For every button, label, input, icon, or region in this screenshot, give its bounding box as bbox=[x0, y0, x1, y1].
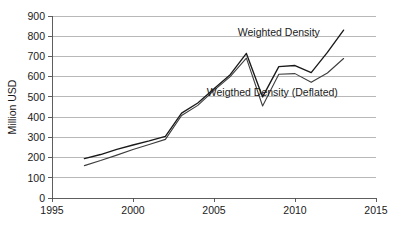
line-chart: 0100200300400500600700800900 19952000200… bbox=[0, 0, 396, 232]
axes bbox=[52, 16, 376, 198]
series-annotation-1: Weigthed Density (Deflated) bbox=[207, 86, 338, 98]
y-axis-tick-label: 900 bbox=[27, 10, 45, 22]
axis-tickmarks bbox=[48, 16, 376, 202]
data-series bbox=[84, 30, 343, 165]
series-annotations: Weighted DensityWeigthed Density (Deflat… bbox=[207, 26, 338, 98]
y-axis-tick-label: 700 bbox=[27, 50, 45, 62]
x-axis-tick-label: 2000 bbox=[121, 204, 145, 216]
y-axis-tick-labels: 0100200300400500600700800900 bbox=[27, 10, 45, 204]
series-annotation-0: Weighted Density bbox=[238, 26, 321, 38]
x-axis-tick-label: 1995 bbox=[40, 204, 64, 216]
y-axis-tick-label: 800 bbox=[27, 30, 45, 42]
y-axis-tick-label: 600 bbox=[27, 70, 45, 82]
y-axis-tick-label: 100 bbox=[27, 172, 45, 184]
chart-container: 0100200300400500600700800900 19952000200… bbox=[0, 0, 396, 232]
y-axis-tick-label: 500 bbox=[27, 91, 45, 103]
y-axis-title: Million USD bbox=[6, 79, 18, 134]
y-axis-tick-label: 200 bbox=[27, 151, 45, 163]
x-axis-tick-labels: 19952000200520102015 bbox=[40, 204, 388, 216]
y-axis-tick-label: 300 bbox=[27, 131, 45, 143]
x-axis-tick-label: 2005 bbox=[202, 204, 226, 216]
series-line-1 bbox=[84, 58, 343, 166]
x-axis-tick-label: 2015 bbox=[364, 204, 388, 216]
x-axis-tick-label: 2010 bbox=[283, 204, 307, 216]
y-axis-tick-label: 400 bbox=[27, 111, 45, 123]
y-axis-tick-label: 0 bbox=[39, 192, 45, 204]
